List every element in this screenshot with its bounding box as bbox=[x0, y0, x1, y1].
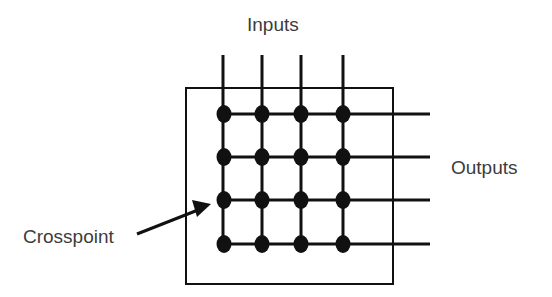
crosspoint-dot bbox=[255, 235, 270, 253]
input-lines bbox=[223, 55, 343, 245]
crossbar-diagram bbox=[0, 0, 552, 297]
crosspoint-label: Crosspoint bbox=[23, 227, 114, 246]
crosspoint-dot bbox=[255, 105, 270, 123]
crosspoint-dot bbox=[294, 148, 309, 166]
crosspoint-dot bbox=[336, 191, 351, 209]
crosspoint-dot bbox=[336, 105, 351, 123]
crosspoints bbox=[217, 105, 351, 253]
outputs-label: Outputs bbox=[451, 158, 518, 177]
crosspoint-dot bbox=[294, 191, 309, 209]
crosspoint-dot bbox=[294, 235, 309, 253]
crosspoint-dot bbox=[336, 148, 351, 166]
crosspoint-dot bbox=[336, 235, 351, 253]
crosspoint-dot bbox=[217, 235, 232, 253]
crosspoint-dot bbox=[217, 191, 232, 209]
crosspoint-arrow-icon bbox=[137, 200, 211, 234]
inputs-label: Inputs bbox=[247, 15, 299, 34]
crosspoint-dot bbox=[217, 105, 232, 123]
crosspoint-dot bbox=[255, 148, 270, 166]
output-lines bbox=[223, 114, 430, 244]
crosspoint-dot bbox=[294, 105, 309, 123]
crosspoint-dot bbox=[217, 148, 232, 166]
switch-box bbox=[186, 88, 393, 284]
crosspoint-dot bbox=[255, 191, 270, 209]
